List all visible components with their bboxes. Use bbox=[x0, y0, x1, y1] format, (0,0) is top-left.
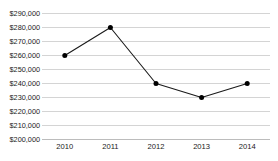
series-markers bbox=[62, 25, 249, 100]
series-line bbox=[65, 28, 247, 98]
data-point bbox=[199, 95, 204, 100]
plot-area: $290,000$280,000$270,000$260,000$250,000… bbox=[0, 0, 278, 161]
data-point bbox=[62, 53, 67, 58]
line-chart: $290,000$280,000$270,000$260,000$250,000… bbox=[0, 0, 278, 161]
data-series bbox=[0, 0, 278, 161]
data-point bbox=[154, 81, 159, 86]
data-point bbox=[245, 81, 250, 86]
data-point bbox=[108, 25, 113, 30]
